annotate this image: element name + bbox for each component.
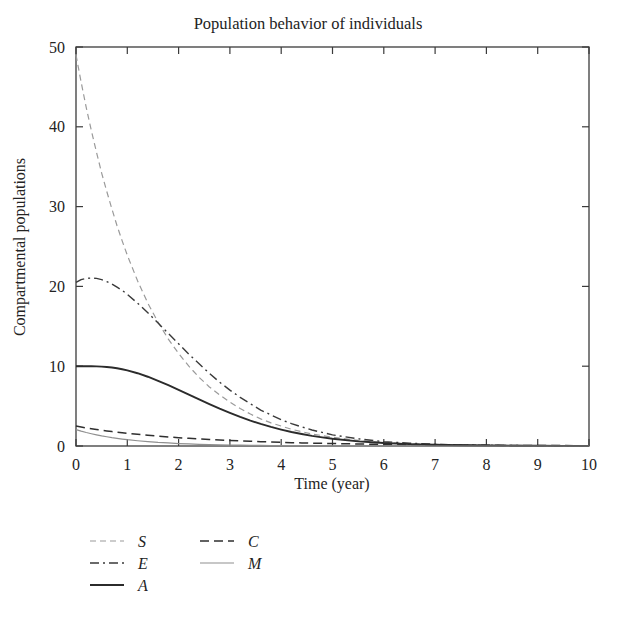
legend-label-a: A: [137, 577, 148, 594]
legend-label-c: C: [248, 533, 259, 550]
chart-title: Population behavior of individuals: [194, 14, 423, 33]
y-axis-label: Compartmental populations: [11, 158, 29, 336]
legend-label-s: S: [138, 533, 146, 550]
x-tick-label: 5: [329, 456, 337, 473]
x-tick-label: 8: [482, 456, 490, 473]
data-series-curves: [76, 55, 589, 446]
x-tick-label: 6: [380, 456, 388, 473]
x-tick-label: 2: [175, 456, 183, 473]
x-tick-label: 0: [72, 456, 80, 473]
plot-area-border: [76, 47, 589, 446]
legend-label-e: E: [137, 555, 148, 572]
chart-figure: Population behavior of individuals 01020…: [0, 0, 617, 624]
x-tick-label: 4: [277, 456, 285, 473]
x-tick-label: 7: [431, 456, 439, 473]
y-tick-label: 50: [49, 39, 65, 56]
y-tick-label: 30: [49, 198, 65, 215]
x-tick-label: 10: [581, 456, 597, 473]
series-curve-a: [76, 366, 589, 446]
x-tick-label: 3: [226, 456, 234, 473]
x-axis-label: Time (year): [294, 475, 369, 493]
series-curve-s: [76, 55, 589, 446]
y-axis-ticks: 01020304050: [49, 39, 589, 455]
y-tick-label: 40: [49, 118, 65, 135]
y-tick-label: 20: [49, 278, 65, 295]
y-tick-label: 0: [57, 438, 65, 455]
population-behavior-line-chart: Population behavior of individuals 01020…: [0, 0, 617, 624]
legend-label-m: M: [247, 555, 263, 572]
plot-frame: [76, 47, 589, 446]
series-curve-e: [76, 278, 589, 446]
y-tick-label: 10: [49, 358, 65, 375]
x-tick-label: 1: [123, 456, 131, 473]
x-axis-ticks: 012345678910: [72, 47, 597, 473]
x-tick-label: 9: [534, 456, 542, 473]
chart-legend: SEACM: [90, 533, 263, 594]
